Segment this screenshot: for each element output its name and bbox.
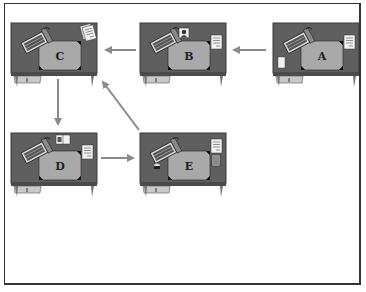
desk-e: E <box>140 133 226 197</box>
arrow-e-to-c <box>103 82 139 130</box>
document-icon <box>344 35 355 49</box>
desk-label-d: D <box>55 160 65 173</box>
desk-a: A <box>273 23 359 87</box>
photo-frame-icon <box>179 28 189 38</box>
desk-b: B <box>140 23 226 87</box>
document-icon <box>211 139 222 153</box>
notepad-icon <box>278 57 285 68</box>
document-icon <box>82 145 93 159</box>
coffee-mug-icon <box>154 163 161 169</box>
desk-d: D <box>11 133 97 197</box>
desk-label-c: C <box>56 50 65 63</box>
book-icon <box>56 135 70 144</box>
workflow-diagram: C B A D <box>0 0 366 292</box>
desk-label-b: B <box>184 50 193 63</box>
desk-c: C <box>11 23 97 87</box>
desk-label-e: E <box>185 160 193 173</box>
desk-label-a: A <box>317 50 327 63</box>
document-icon <box>211 35 222 49</box>
pencil-cup-icon <box>212 155 220 166</box>
